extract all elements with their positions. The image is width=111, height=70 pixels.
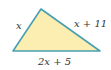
triangle-diagram: x x + 11 2x + 5: [0, 0, 111, 70]
right-side-label: x + 11: [74, 18, 107, 29]
bottom-side-label: 2x + 5: [37, 56, 71, 67]
triangle: [13, 9, 100, 51]
left-side-label: x: [16, 20, 22, 31]
